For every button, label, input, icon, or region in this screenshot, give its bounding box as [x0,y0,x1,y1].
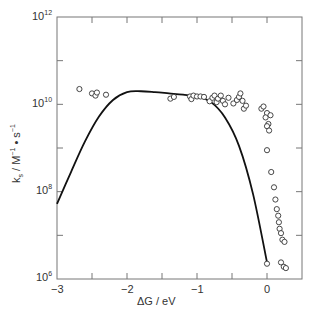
x-tick-label-neg3: −3 [51,283,64,295]
y-axis-title: ks / M−1 • s−1 [9,124,24,183]
data-point [269,169,274,174]
x-tick-label-neg2: −2 [121,283,134,295]
data-point [171,94,176,99]
data-point [238,91,243,96]
data-point [274,207,279,212]
y-tick-label-8: 108 [36,183,52,196]
data-point [264,148,269,153]
data-point [94,90,99,95]
data-point [276,220,281,225]
data-point [218,93,223,98]
data-point [261,104,266,109]
x-tick-label-neg1: −1 [191,283,204,295]
y-tick-label-6: 106 [36,270,52,283]
data-point [222,102,227,107]
x-tick-label-0: 0 [264,283,270,295]
theory-curve [57,91,267,262]
data-point [278,231,283,236]
y-tick-label-12: 1012 [32,9,52,22]
data-point [283,265,288,270]
data-points [77,86,289,270]
data-point [226,95,231,100]
data-point [264,261,269,266]
data-point [201,94,206,99]
data-point [243,103,248,108]
data-point [282,239,287,244]
data-point [276,213,281,218]
data-point [273,197,278,202]
data-point [268,113,273,118]
y-tick-label-10: 1010 [32,96,52,109]
data-point [267,128,272,133]
data-point [77,86,82,91]
data-point [240,98,245,103]
data-point [271,185,276,190]
data-point [263,115,268,120]
data-point [103,92,108,97]
x-axis-title: ΔG / eV [137,295,176,307]
